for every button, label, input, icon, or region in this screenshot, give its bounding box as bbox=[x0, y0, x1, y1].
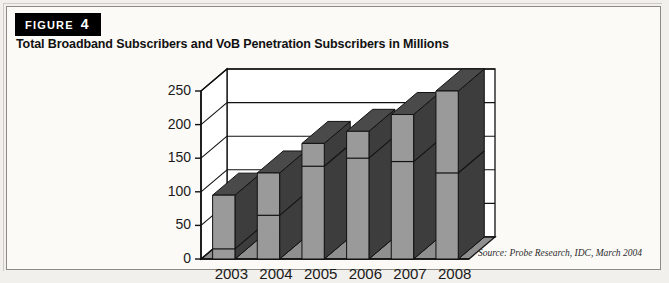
figure-badge: FIGURE 4 bbox=[15, 13, 101, 36]
y-axis-tick-label: 250 bbox=[149, 82, 191, 98]
figure-badge-word: FIGURE bbox=[25, 19, 74, 31]
x-axis-tick-label: 2005 bbox=[297, 265, 345, 282]
source-note: Source: Probe Research, IDC, March 2004 bbox=[478, 248, 642, 258]
y-axis-tick-label: 200 bbox=[149, 116, 191, 132]
figure-frame: FIGURE 4 Total Broadband Subscribers and… bbox=[6, 6, 661, 270]
y-axis-tick-label: 50 bbox=[149, 216, 191, 232]
chart-svg bbox=[159, 67, 509, 283]
y-axis-tick-label: 100 bbox=[149, 183, 191, 199]
y-axis-tick-label: 150 bbox=[149, 149, 191, 165]
x-axis-tick-label: 2006 bbox=[341, 265, 389, 282]
figure-badge-number: 4 bbox=[81, 16, 89, 32]
y-axis-tick-label: 0 bbox=[149, 250, 191, 266]
x-axis-tick-label: 2003 bbox=[207, 265, 255, 282]
figure-title: Total Broadband Subscribers and VoB Pene… bbox=[16, 37, 449, 51]
x-axis-tick-label: 2007 bbox=[386, 265, 434, 282]
x-axis-tick-label: 2008 bbox=[431, 265, 479, 282]
x-axis-tick-label: 2004 bbox=[252, 265, 300, 282]
bar-chart-plot: 050100150200250200320042005200620072008 bbox=[159, 67, 509, 267]
chart-area: 050100150200250200320042005200620072008 … bbox=[7, 59, 660, 269]
